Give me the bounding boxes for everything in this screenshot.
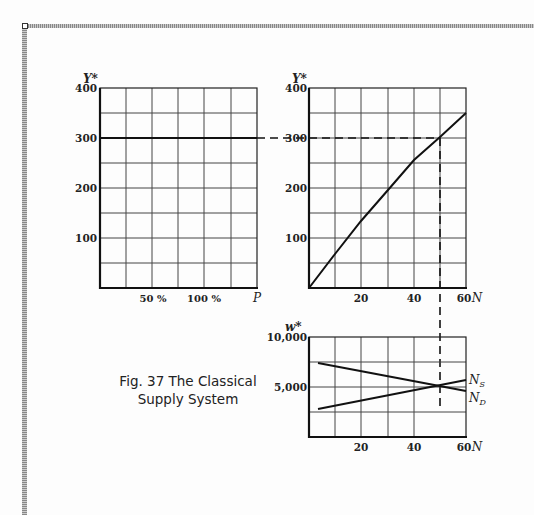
tick-label: 200 [285,182,307,194]
left-x-axis-label: P [252,291,262,305]
tick-label: 100 % [187,293,221,304]
supply-curve-label: NS [468,373,486,389]
tick-label: 60 [457,441,472,453]
right-y-ticks: 400 300 200 100 [285,82,307,244]
caption-line-1: Fig. 37 The Classical [103,372,273,390]
tick-label: 40 [407,441,422,453]
right-x-axis-label: N [471,291,483,305]
tick-label: 400 [75,82,97,94]
tick-label: 100 [75,232,97,244]
tick-label: 60 [457,292,472,304]
tick-label: 200 [75,182,97,194]
tick-label: 300 [75,132,97,144]
lower-x-ticks: 20 40 60 [354,441,472,453]
tick-label: 50 % [140,293,167,304]
demand-curve-label: ND [468,391,487,407]
caption-line-2: Supply System [103,390,273,408]
left-panel-grid [100,88,257,288]
figure-canvas: Y* 400 300 200 100 50 % 100 % P Y* 400 3… [0,0,534,515]
tick-label: 100 [285,232,307,244]
lower-x-axis-label: N [471,440,483,454]
figure-caption: Fig. 37 The Classical Supply System [103,372,273,408]
tick-label: 20 [354,292,369,304]
left-y-ticks: 400 300 200 100 [75,82,97,244]
left-x-ticks: 50 % 100 % [140,293,222,304]
tick-label: 300 [285,132,307,144]
tick-label: 20 [354,441,369,453]
tick-label: 5,000 [274,381,307,393]
labor-supply-line [318,380,466,409]
tick-label: 40 [407,292,422,304]
tick-label: 400 [285,82,307,94]
right-x-ticks: 20 40 60 [354,292,472,304]
tick-label: 10,000 [267,331,307,343]
